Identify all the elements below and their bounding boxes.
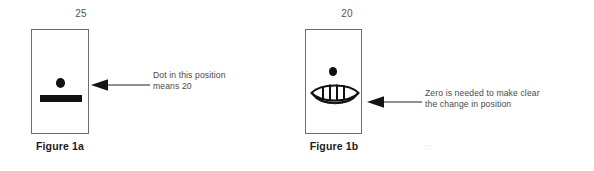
dot-glyph <box>56 78 65 88</box>
scan-watermark: m <box>424 140 458 168</box>
figure-1b-annotation-arrow-icon <box>366 96 422 108</box>
figure-1a-top-value: 25 <box>51 8 111 20</box>
bar-glyph <box>40 95 82 102</box>
figure-1b-top-value: 20 <box>317 8 377 20</box>
figure-1b-caption: Figure 1b <box>294 140 374 153</box>
dot-glyph <box>329 67 337 76</box>
figure-1b-annotation-text: Zero is needed to make clear the change … <box>425 88 594 111</box>
figure-1b-numeral-box <box>305 29 362 134</box>
figure-1a-caption: Figure 1a <box>20 140 100 153</box>
figure-1a-annotation-arrow-icon <box>90 79 150 91</box>
figure-1a-annotation-text: Dot in this position means 20 <box>153 70 273 93</box>
figure-canvas: 25 Figure 1a Dot in this position means … <box>0 0 594 171</box>
shell-zero-glyph-icon <box>310 80 360 108</box>
figure-1a-numeral-box <box>31 29 89 134</box>
